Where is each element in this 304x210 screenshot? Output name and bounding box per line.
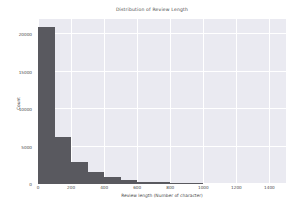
x-tick-label: 400	[100, 185, 108, 190]
y-tick-label: 10000	[19, 107, 32, 112]
histogram-figure: Distribution of Review Length 0500010000…	[0, 0, 304, 210]
y-tick-label: 20000	[19, 32, 32, 37]
x-axis-label: Review length (Number of character)	[38, 193, 286, 198]
x-tick-label: 0	[37, 185, 40, 190]
histogram-bar	[121, 180, 138, 184]
x-tick-label: 600	[133, 185, 141, 190]
histogram-bar	[170, 183, 187, 184]
histogram-bar	[55, 137, 72, 184]
histogram-bar	[187, 183, 204, 184]
histogram-bar	[71, 162, 88, 185]
histogram-bar	[88, 172, 105, 184]
x-tick-label: 200	[67, 185, 75, 190]
x-axis-ticklabels: 0200400600800100012001400	[38, 185, 286, 193]
histogram-bar	[38, 27, 55, 185]
histogram-bar	[154, 182, 171, 184]
x-tick-label: 1200	[231, 185, 242, 190]
y-tick-label: 15000	[19, 69, 32, 74]
chart-title: Distribution of Review Length	[0, 7, 304, 12]
y-tick-label: 5000	[21, 144, 32, 149]
plot-area	[38, 19, 286, 184]
y-axis-label: Count	[16, 74, 21, 134]
histogram-bar	[137, 182, 154, 184]
histogram-bars	[38, 19, 286, 184]
x-tick-label: 800	[166, 185, 174, 190]
y-tick-label: 0	[29, 182, 32, 187]
histogram-bar	[104, 177, 121, 184]
x-tick-label: 1400	[264, 185, 275, 190]
x-tick-label: 1000	[198, 185, 209, 190]
